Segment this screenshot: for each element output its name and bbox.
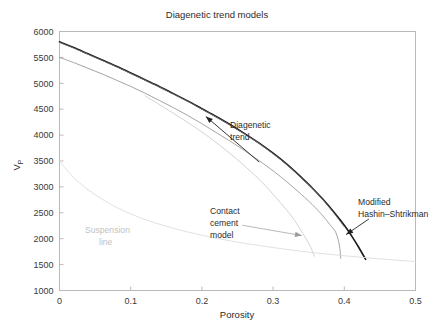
annot-diagenetic-trend-line1: Diagenetic bbox=[230, 120, 271, 130]
y-tick-label: 1500 bbox=[33, 260, 53, 270]
annotation-suspension-line: Suspension line bbox=[85, 225, 130, 247]
x-tick-label: 0.2 bbox=[196, 296, 209, 306]
annot-mhs-line2: Hashin–Shtrikman bbox=[358, 209, 428, 219]
y-axis-title: VP bbox=[11, 159, 24, 170]
x-axis-ticks: 00.10.20.30.40.5 bbox=[57, 287, 422, 306]
y-tick-label: 4000 bbox=[33, 130, 53, 140]
annot-mhs-line1: Modified bbox=[358, 197, 391, 207]
svg-text:VP: VP bbox=[11, 159, 24, 170]
y-tick-label: 6000 bbox=[33, 27, 53, 37]
arrow-head-icon bbox=[295, 232, 302, 237]
annotation-diagenetic-trend: Diagenetic trend bbox=[230, 120, 271, 142]
x-axis-title: Porosity bbox=[220, 309, 255, 320]
annotation-leader-line bbox=[242, 225, 302, 235]
y-tick-label: 5500 bbox=[33, 53, 53, 63]
annotation-contact-cement-model: Contact cement model bbox=[210, 206, 240, 240]
y-tick-label: 1000 bbox=[33, 286, 53, 296]
y-tick-label: 5000 bbox=[33, 79, 53, 89]
x-tick-label: 0.3 bbox=[267, 296, 280, 306]
chart-figure: Diagenetic trend models 1000150020002500… bbox=[0, 0, 437, 332]
annot-diagenetic-trend-line2: trend bbox=[230, 132, 250, 142]
diagenetic-trend-chart: Diagenetic trend models 1000150020002500… bbox=[0, 0, 437, 332]
annot-ccm-line3: model bbox=[210, 230, 233, 240]
y-tick-label: 3500 bbox=[33, 156, 53, 166]
y-tick-label: 2500 bbox=[33, 208, 53, 218]
y-tick-label: 4500 bbox=[33, 104, 53, 114]
annotation-modified-hashin-shtrikman: Modified Hashin–Shtrikman bbox=[358, 197, 428, 219]
y-axis-title-sub: P bbox=[17, 159, 24, 164]
y-axis-ticks: 1000150020002500300035004000450050005500… bbox=[33, 27, 63, 296]
x-tick-label: 0.5 bbox=[409, 296, 422, 306]
y-tick-label: 2000 bbox=[33, 234, 53, 244]
x-tick-label: 0 bbox=[57, 296, 62, 306]
annot-suspension-line2: line bbox=[99, 237, 113, 247]
x-tick-label: 0.4 bbox=[338, 296, 351, 306]
y-tick-label: 3000 bbox=[33, 182, 53, 192]
annot-ccm-line2: cement bbox=[210, 218, 239, 228]
chart-title: Diagenetic trend models bbox=[166, 9, 269, 20]
annot-ccm-line1: Contact bbox=[210, 206, 240, 216]
x-tick-label: 0.1 bbox=[124, 296, 137, 306]
annot-suspension-line1: Suspension bbox=[85, 225, 130, 235]
